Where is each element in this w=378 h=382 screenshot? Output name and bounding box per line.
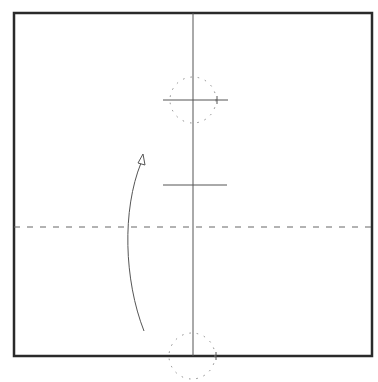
origami-diagram: [0, 0, 378, 382]
fold-arrow-curve: [128, 163, 144, 331]
fold-arrow-head-icon: [138, 154, 145, 165]
